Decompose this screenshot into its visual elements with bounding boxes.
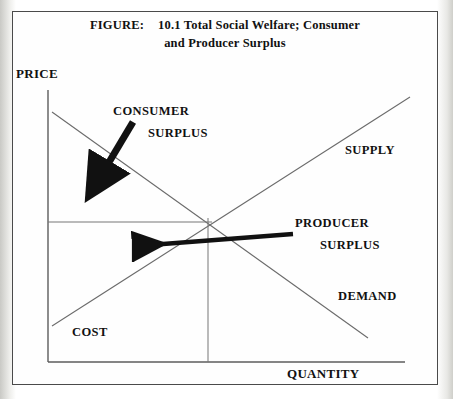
producer-surplus-label-line-1: PRODUCER	[295, 216, 369, 231]
supply-demand-plot	[0, 0, 453, 399]
consumer-surplus-label-line-1: CONSUMER	[113, 104, 189, 119]
x-axis-label: QUANTITY	[287, 366, 359, 382]
figure-root: FIGURE:10.1 Total Social Welfare; Consum…	[0, 0, 453, 399]
y-axis-label: PRICE	[16, 66, 58, 82]
supply-curve-label: SUPPLY	[345, 143, 395, 158]
consumer-surplus-arrow	[99, 122, 133, 179]
producer-surplus-label-line-2: SURPLUS	[320, 238, 380, 253]
consumer-surplus-label-line-2: SURPLUS	[148, 126, 208, 141]
cost-region-label: COST	[72, 325, 108, 340]
producer-surplus-arrow	[150, 234, 293, 245]
demand-curve-label: DEMAND	[338, 289, 397, 304]
